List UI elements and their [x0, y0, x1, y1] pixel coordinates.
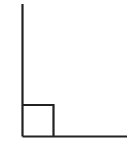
right-angle-diagram [0, 0, 131, 146]
right-angle-marker [23, 105, 54, 137]
